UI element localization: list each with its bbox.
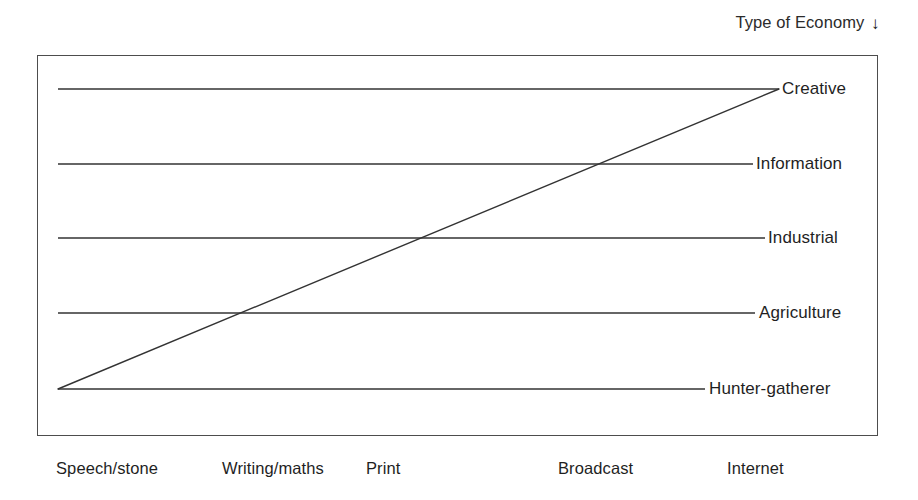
chart-caption-text: Type of Economy: [735, 13, 864, 31]
arrow-down-icon: ↓: [871, 13, 880, 35]
row-label-information: Information: [756, 154, 842, 174]
row-label-hunter-gatherer: Hunter-gatherer: [709, 379, 831, 399]
axis-label-speech-stone: Speech/stone: [56, 458, 158, 478]
axis-label-internet: Internet: [727, 458, 784, 478]
axis-label-writing-maths: Writing/maths: [222, 458, 324, 478]
row-label-agriculture: Agriculture: [759, 303, 841, 323]
chart-caption: Type of Economy↓: [735, 11, 880, 34]
axis-label-broadcast: Broadcast: [558, 458, 633, 478]
row-label-creative: Creative: [782, 79, 846, 99]
chart-page: Type of Economy↓ Creative Information In…: [0, 0, 918, 500]
row-label-industrial: Industrial: [768, 228, 838, 248]
axis-label-print: Print: [366, 458, 400, 478]
